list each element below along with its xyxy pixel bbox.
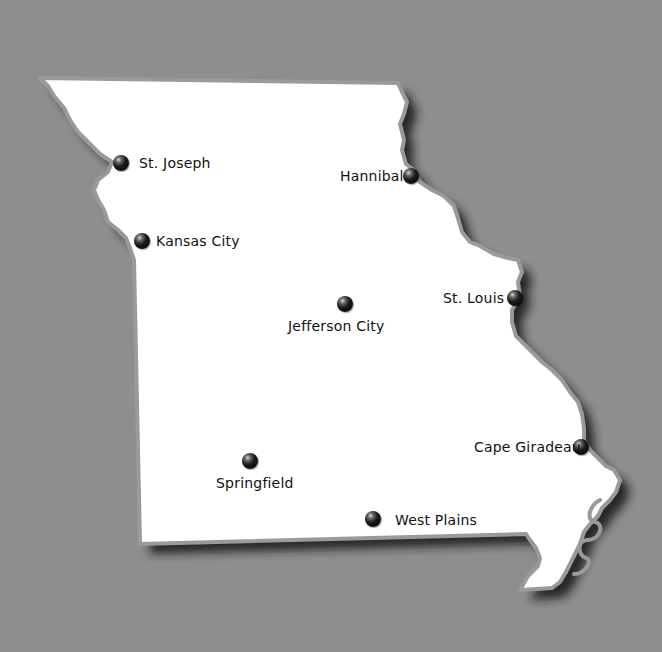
city-label-springfield: Springfield (216, 475, 294, 491)
city-label-st-joseph: St. Joseph (139, 155, 211, 171)
city-label-jefferson-city: Jefferson City (288, 318, 384, 334)
city-label-kansas-city: Kansas City (156, 233, 240, 249)
city-dot-kansas-city[interactable] (134, 233, 150, 249)
city-label-cape-giradeau: Cape Giradeau (474, 439, 581, 455)
city-dot-jefferson-city[interactable] (337, 296, 353, 312)
city-dot-st-joseph[interactable] (113, 155, 129, 171)
city-label-st-louis: St. Louis (443, 290, 504, 306)
city-dot-hannibal[interactable] (403, 168, 419, 184)
city-dot-st-louis[interactable] (507, 290, 523, 306)
city-label-west-plains: West Plains (395, 512, 477, 528)
city-label-hannibal: Hannibal (340, 168, 404, 184)
city-dot-west-plains[interactable] (365, 511, 381, 527)
city-dot-springfield[interactable] (242, 453, 258, 469)
state-outline (40, 78, 620, 590)
